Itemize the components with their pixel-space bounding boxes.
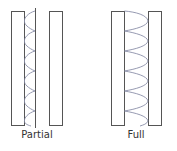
right-plate (50, 12, 63, 126)
partial-label: Partial (7, 129, 67, 140)
partial-wave (24, 11, 35, 126)
partial-panel (12, 8, 63, 128)
left-plate (112, 12, 125, 126)
right-plate (149, 12, 162, 126)
full-label: Full (106, 129, 166, 140)
full-panel (112, 11, 162, 126)
left-plate (12, 12, 25, 126)
full-wave (125, 11, 149, 126)
